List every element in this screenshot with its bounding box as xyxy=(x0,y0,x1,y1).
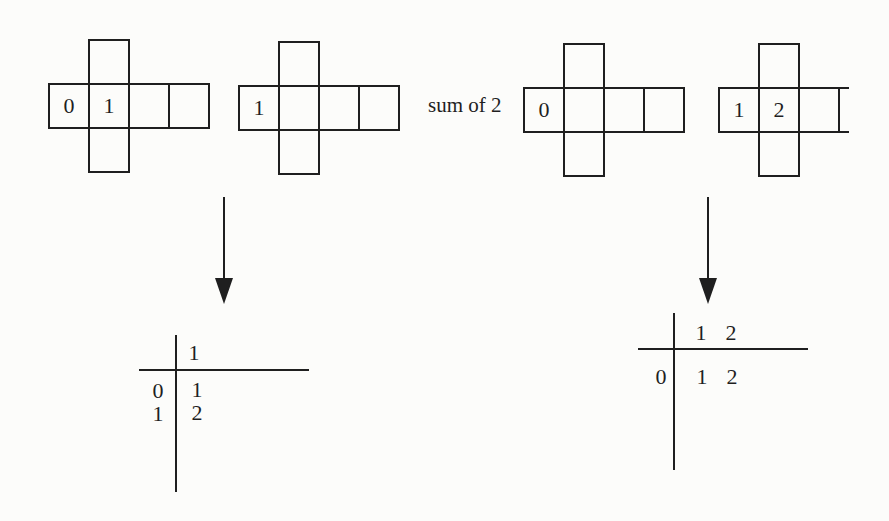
net-clipped-edge-top xyxy=(840,87,849,89)
down-arrow-right xyxy=(699,197,717,304)
net-cell-2 xyxy=(128,83,170,129)
table-vertical-line xyxy=(175,335,177,492)
net-cell-2 xyxy=(603,87,645,133)
net-cell-0: 1 xyxy=(238,85,280,131)
table-cell: 1 xyxy=(192,379,203,401)
dice-net-2: 1 xyxy=(238,41,400,175)
net-cell-bottom xyxy=(278,129,320,175)
down-arrow-left xyxy=(215,197,233,304)
col-header: 1 xyxy=(189,342,200,364)
dice-net-3: 0 xyxy=(523,43,685,177)
net-cell-bottom xyxy=(88,127,130,173)
dice-net-4: 1 2 xyxy=(718,43,880,177)
sum-of-2-label: sum of 2 xyxy=(428,93,502,118)
addition-table-left: 1 0 1 1 2 xyxy=(130,330,330,505)
net-cell-3 xyxy=(168,83,210,129)
net-cell-0: 0 xyxy=(48,83,90,129)
table-vertical-line xyxy=(673,313,675,470)
net-cell-3 xyxy=(358,85,400,131)
net-cell-1: 2 xyxy=(758,87,800,133)
figure-canvas: 0 1 1 sum of 2 0 1 2 xyxy=(0,0,889,521)
net-cell-1 xyxy=(278,85,320,131)
arrowhead-icon xyxy=(215,278,233,304)
net-cell-bottom xyxy=(758,131,800,177)
net-cell-0: 0 xyxy=(523,87,565,133)
table-cell: 2 xyxy=(727,366,738,388)
row-header: 1 xyxy=(153,403,164,425)
table-horizontal-line xyxy=(139,369,309,371)
net-cell-bottom xyxy=(563,131,605,177)
table-cell: 2 xyxy=(192,402,203,424)
net-cell-top xyxy=(563,43,605,89)
net-cell-0: 1 xyxy=(718,87,760,133)
arrow-shaft xyxy=(223,197,225,281)
addition-table-right: 1 2 0 1 2 xyxy=(628,308,828,483)
table-horizontal-line xyxy=(638,348,808,350)
net-cell-top xyxy=(88,39,130,85)
net-cell-top xyxy=(758,43,800,89)
col-header: 1 xyxy=(696,322,707,344)
net-cell-3 xyxy=(643,87,685,133)
row-header: 0 xyxy=(153,380,164,402)
table-cell: 1 xyxy=(697,366,708,388)
dice-net-1: 0 1 xyxy=(48,39,210,173)
net-clipped-edge-bottom xyxy=(840,131,849,133)
net-cell-top xyxy=(278,41,320,87)
net-cell-1: 1 xyxy=(88,83,130,129)
arrow-shaft xyxy=(707,197,709,281)
col-header: 2 xyxy=(726,322,737,344)
row-header: 0 xyxy=(656,366,667,388)
net-cell-1 xyxy=(563,87,605,133)
arrowhead-icon xyxy=(699,278,717,304)
net-cell-2 xyxy=(798,87,840,133)
net-cell-2 xyxy=(318,85,360,131)
